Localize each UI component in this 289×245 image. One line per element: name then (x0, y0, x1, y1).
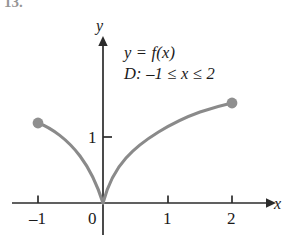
endpoint-dot-left (33, 118, 44, 129)
domain-annotation: D: –1 ≤ x ≤ 2 (124, 66, 215, 83)
curve-right-branch (103, 103, 232, 203)
domain-body: –1 ≤ x ≤ 2 (146, 64, 215, 83)
x-axis-ticks (38, 196, 232, 204)
tick-label-x-one: 1 (163, 210, 172, 227)
tick-label-x-two: 2 (227, 210, 236, 227)
tick-label-origin: 0 (88, 210, 97, 227)
x-axis-label: x (274, 196, 281, 212)
y-axis (98, 36, 107, 235)
function-annotation: y = f(x) (124, 45, 175, 62)
function-graph-figure: 13. x y –1 0 1 (0, 0, 289, 245)
tick-label-y-one: 1 (88, 129, 97, 146)
endpoint-dot-right (227, 98, 238, 109)
x-axis (12, 198, 276, 207)
tick-label-x-neg-one: –1 (29, 210, 46, 227)
domain-prefix: D: (124, 64, 142, 83)
y-axis-label: y (96, 18, 103, 34)
